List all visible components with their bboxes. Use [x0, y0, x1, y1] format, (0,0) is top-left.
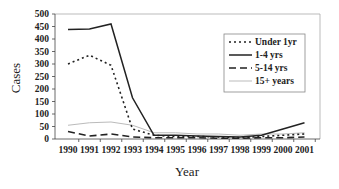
x-axis-title: Year [175, 164, 200, 179]
y-tick-label: 0 [44, 134, 49, 144]
y-axis-ticks: 050100150200250300350400450500 [35, 9, 55, 144]
legend-item: 1-4 yrs [255, 50, 283, 60]
legend-item: 15+ years [255, 76, 294, 86]
y-tick-label: 250 [35, 72, 50, 82]
y-axis-title: Cases [8, 63, 23, 93]
x-tick-label: 1994 [145, 145, 164, 155]
y-tick-label: 450 [35, 22, 50, 32]
legend-item: Under 1yr [255, 37, 298, 47]
x-tick-label: 1998 [231, 145, 250, 155]
x-tick-label: 1993 [123, 145, 142, 155]
x-tick-label: 2000 [274, 145, 293, 155]
x-tick-label: 1999 [252, 145, 271, 155]
y-tick-label: 300 [35, 59, 50, 69]
y-tick-label: 350 [35, 47, 50, 57]
line-chart: 050100150200250300350400450500 199019911… [0, 0, 339, 189]
y-tick-label: 150 [35, 97, 50, 107]
y-tick-label: 500 [35, 9, 50, 19]
x-tick-label: 1991 [80, 145, 99, 155]
x-tick-label: 1990 [59, 145, 78, 155]
y-tick-label: 400 [35, 34, 50, 44]
legend-item: 5-14 yrs [255, 63, 288, 73]
y-tick-label: 200 [35, 84, 50, 94]
x-axis-ticks: 1990199119921993199419951996199719981999… [59, 139, 316, 155]
x-tick-label: 2001 [295, 145, 314, 155]
y-tick-label: 100 [35, 109, 50, 119]
legend: Under 1yr1-4 yrs5-14 yrs15+ years [224, 34, 305, 92]
x-tick-label: 1996 [188, 145, 207, 155]
x-tick-label: 1997 [209, 145, 228, 155]
x-tick-label: 1995 [166, 145, 185, 155]
x-tick-label: 1992 [102, 145, 121, 155]
y-tick-label: 50 [40, 122, 50, 132]
